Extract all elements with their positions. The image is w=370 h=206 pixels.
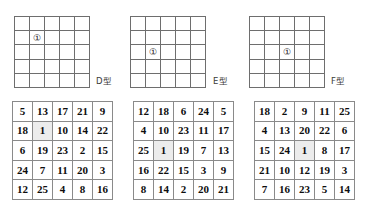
number-cell[interactable]: 12 [295, 161, 315, 181]
blank-cell[interactable] [161, 31, 176, 45]
blank-cell[interactable] [265, 60, 280, 74]
blank-cell[interactable] [45, 60, 60, 74]
blank-cell[interactable] [310, 45, 325, 59]
blank-cell[interactable] [295, 45, 310, 59]
number-cell[interactable]: 4 [255, 122, 275, 142]
number-cell[interactable]: 14 [335, 180, 355, 200]
blank-cell[interactable] [30, 45, 45, 59]
number-cell[interactable]: 23 [53, 141, 73, 161]
blank-cell[interactable] [45, 31, 60, 45]
blank-cell[interactable] [310, 31, 325, 45]
blank-cell[interactable] [146, 17, 161, 31]
blank-cell[interactable] [45, 45, 60, 59]
number-cell[interactable]: 20 [194, 180, 214, 200]
blank-cell[interactable] [191, 17, 206, 31]
number-cell[interactable]: 18 [13, 122, 33, 142]
number-cell[interactable]: 22 [154, 161, 174, 181]
blank-cell[interactable] [280, 60, 295, 74]
blank-cell[interactable] [310, 60, 325, 74]
number-cell[interactable]: 7 [33, 161, 53, 181]
blank-cell[interactable] [131, 74, 146, 88]
blank-cell[interactable] [250, 17, 265, 31]
blank-cell[interactable] [280, 74, 295, 88]
number-cell[interactable]: 19 [315, 161, 335, 181]
number-cell[interactable]: 15 [174, 161, 194, 181]
blank-cell[interactable] [176, 45, 191, 59]
number-cell[interactable]: 1 [295, 141, 315, 161]
blank-cell[interactable] [161, 74, 176, 88]
blank-cell[interactable] [146, 31, 161, 45]
number-cell[interactable]: 18 [154, 102, 174, 122]
number-cell[interactable]: 4 [134, 122, 154, 142]
number-cell[interactable]: 9 [295, 102, 315, 122]
blank-cell[interactable] [280, 17, 295, 31]
number-cell[interactable]: 21 [73, 102, 93, 122]
blank-cell[interactable] [280, 31, 295, 45]
blank-cell[interactable] [265, 45, 280, 59]
blank-cell[interactable] [295, 17, 310, 31]
number-cell[interactable]: 16 [275, 180, 295, 200]
blank-cell[interactable] [75, 31, 90, 45]
number-cell[interactable]: 7 [194, 141, 214, 161]
number-cell[interactable]: 23 [295, 180, 315, 200]
blank-cell[interactable]: ① [146, 45, 161, 59]
blank-cell[interactable] [60, 60, 75, 74]
blank-cell[interactable] [295, 31, 310, 45]
blank-cell[interactable] [30, 60, 45, 74]
blank-cell[interactable] [75, 74, 90, 88]
blank-cell[interactable]: ① [280, 45, 295, 59]
number-cell[interactable]: 10 [154, 122, 174, 142]
blank-cell[interactable] [75, 60, 90, 74]
blank-cell[interactable] [75, 45, 90, 59]
number-cell[interactable]: 22 [315, 122, 335, 142]
blank-cell[interactable] [191, 45, 206, 59]
number-cell[interactable]: 16 [134, 161, 154, 181]
blank-cell[interactable] [131, 45, 146, 59]
blank-cell[interactable] [60, 31, 75, 45]
number-cell[interactable]: 2 [275, 102, 295, 122]
blank-cell[interactable] [131, 17, 146, 31]
number-cell[interactable]: 10 [53, 122, 73, 142]
blank-cell[interactable] [250, 31, 265, 45]
number-cell[interactable]: 20 [73, 161, 93, 181]
number-cell[interactable]: 14 [73, 122, 93, 142]
number-cell[interactable]: 6 [174, 102, 194, 122]
blank-cell[interactable] [191, 60, 206, 74]
blank-cell[interactable] [265, 17, 280, 31]
number-cell[interactable]: 5 [13, 102, 33, 122]
number-cell[interactable]: 12 [134, 102, 154, 122]
number-cell[interactable]: 21 [214, 180, 234, 200]
blank-cell[interactable] [60, 74, 75, 88]
blank-cell[interactable] [176, 17, 191, 31]
number-cell[interactable]: 25 [134, 141, 154, 161]
number-cell[interactable]: 19 [33, 141, 53, 161]
number-cell[interactable]: 9 [214, 161, 234, 181]
number-cell[interactable]: 2 [174, 180, 194, 200]
number-cell[interactable]: 8 [134, 180, 154, 200]
blank-cell[interactable] [161, 45, 176, 59]
blank-cell[interactable] [15, 60, 30, 74]
blank-cell[interactable] [310, 17, 325, 31]
number-cell[interactable]: 6 [13, 141, 33, 161]
number-cell[interactable]: 14 [154, 180, 174, 200]
blank-cell[interactable] [295, 74, 310, 88]
blank-cell[interactable] [250, 45, 265, 59]
blank-cell[interactable] [310, 74, 325, 88]
number-cell[interactable]: 5 [315, 180, 335, 200]
number-cell[interactable]: 12 [13, 180, 33, 200]
blank-cell[interactable] [161, 60, 176, 74]
number-cell[interactable]: 17 [335, 141, 355, 161]
number-cell[interactable]: 24 [13, 161, 33, 181]
number-cell[interactable]: 20 [295, 122, 315, 142]
number-cell[interactable]: 8 [73, 180, 93, 200]
number-cell[interactable]: 11 [315, 102, 335, 122]
blank-cell[interactable] [176, 31, 191, 45]
number-cell[interactable]: 2 [73, 141, 93, 161]
number-cell[interactable]: 15 [255, 141, 275, 161]
blank-cell[interactable] [161, 17, 176, 31]
number-cell[interactable]: 24 [194, 102, 214, 122]
blank-cell[interactable]: ① [30, 31, 45, 45]
number-cell[interactable]: 18 [255, 102, 275, 122]
blank-cell[interactable] [265, 31, 280, 45]
number-cell[interactable]: 3 [93, 161, 113, 181]
